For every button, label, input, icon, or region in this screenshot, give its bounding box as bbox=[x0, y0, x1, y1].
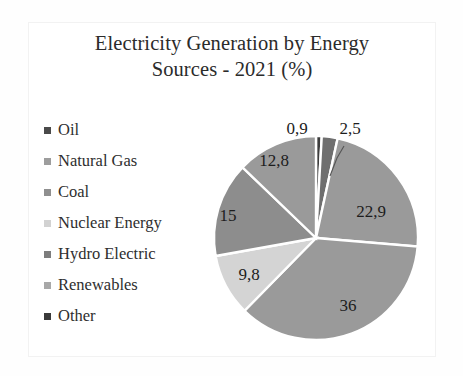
legend-item-label: Oil bbox=[58, 120, 79, 140]
pie-chart-svg: 22,9369,81512,8 0,92,5 bbox=[196, 118, 436, 358]
legend-item-oil[interactable]: Oil bbox=[44, 114, 209, 145]
chart-title: Electricity Generation by Energy Sources… bbox=[28, 30, 436, 82]
legend-item-label: Other bbox=[58, 306, 96, 326]
chart-title-line-1: Electricity Generation by Energy bbox=[28, 30, 436, 56]
pie-value-label: 22,9 bbox=[356, 202, 386, 221]
legend-marker-icon bbox=[44, 313, 51, 320]
legend-item-label: Natural Gas bbox=[58, 151, 137, 171]
pie-callout-label: 2,5 bbox=[339, 119, 360, 138]
legend-marker-icon bbox=[44, 189, 51, 196]
legend-marker-icon bbox=[44, 220, 51, 227]
legend-marker-icon bbox=[44, 158, 51, 165]
pie-value-label: 36 bbox=[340, 296, 357, 315]
legend-item-label: Renewables bbox=[58, 275, 138, 295]
chart-screenshot: Electricity Generation by Energy Sources… bbox=[0, 0, 463, 376]
pie-value-label: 9,8 bbox=[238, 265, 259, 284]
legend-item-other[interactable]: Other bbox=[44, 300, 209, 331]
pie-value-label: 12,8 bbox=[259, 151, 289, 170]
legend-marker-icon bbox=[44, 251, 51, 258]
legend-marker-icon bbox=[44, 127, 51, 134]
legend-marker-icon bbox=[44, 282, 51, 289]
chart-title-line-2: Sources - 2021 (%) bbox=[28, 56, 436, 82]
legend-item-label: Coal bbox=[58, 182, 89, 202]
legend-item-nuclear-energy[interactable]: Nuclear Energy bbox=[44, 207, 209, 238]
legend-item-renewables[interactable]: Renewables bbox=[44, 269, 209, 300]
legend-item-label: Nuclear Energy bbox=[58, 213, 162, 233]
legend-item-natural-gas[interactable]: Natural Gas bbox=[44, 145, 209, 176]
chart-legend: Oil Natural Gas Coal Nuclear Energy Hydr… bbox=[44, 114, 209, 331]
pie-slice-group bbox=[214, 136, 418, 340]
pie-value-label: 15 bbox=[220, 206, 237, 225]
legend-item-coal[interactable]: Coal bbox=[44, 176, 209, 207]
pie-chart: 22,9369,81512,8 0,92,5 bbox=[196, 118, 436, 358]
pie-callout-label: 0,9 bbox=[286, 119, 307, 138]
legend-item-hydro-electric[interactable]: Hydro Electric bbox=[44, 238, 209, 269]
legend-item-label: Hydro Electric bbox=[58, 244, 156, 264]
